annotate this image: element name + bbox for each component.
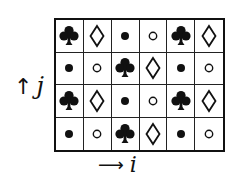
right-arrow-icon: ⟶ — [98, 154, 124, 175]
grid-cell — [56, 53, 84, 86]
club-icon — [171, 90, 191, 112]
circle-icon — [204, 129, 214, 139]
diamond-icon — [145, 56, 161, 80]
diamond-icon — [201, 24, 217, 48]
circle-icon — [92, 63, 102, 73]
i-axis-label: ⟶ i — [98, 152, 137, 177]
up-arrow-icon: ↑ — [14, 74, 32, 99]
grid-cell — [56, 118, 84, 151]
j-axis-label: ↑ j — [14, 72, 44, 100]
diamond-icon — [89, 24, 105, 48]
grid-cell — [112, 118, 140, 151]
grid-cell — [112, 20, 140, 53]
grid-cell — [195, 85, 223, 118]
grid-cell — [84, 20, 112, 53]
dot-icon — [120, 96, 130, 106]
symbol-grid — [54, 18, 225, 152]
diamond-icon — [201, 89, 217, 113]
grid-cell — [195, 20, 223, 53]
grid-cell — [140, 118, 168, 151]
grid-cell — [167, 85, 195, 118]
grid-cell — [195, 118, 223, 151]
grid-cell — [140, 20, 168, 53]
j-variable: j — [36, 72, 43, 100]
grid-cell — [56, 85, 84, 118]
circle-icon — [92, 129, 102, 139]
dot-icon — [176, 63, 186, 73]
diamond-icon — [89, 89, 105, 113]
i-variable: i — [130, 152, 137, 177]
grid-cell — [84, 53, 112, 86]
grid-cell — [195, 53, 223, 86]
circle-icon — [204, 63, 214, 73]
grid-cell — [167, 53, 195, 86]
grid-cell — [84, 118, 112, 151]
dot-icon — [120, 31, 130, 41]
grid-cell — [140, 85, 168, 118]
circle-icon — [148, 31, 158, 41]
grid-cell — [84, 85, 112, 118]
grid-cell — [112, 85, 140, 118]
club-icon — [171, 25, 191, 47]
club-icon — [59, 25, 79, 47]
grid-cell — [167, 118, 195, 151]
grid-cell — [56, 20, 84, 53]
club-icon — [115, 57, 135, 79]
grid-cell — [167, 20, 195, 53]
grid-cell — [140, 53, 168, 86]
club-icon — [59, 90, 79, 112]
club-icon — [115, 123, 135, 145]
diamond-icon — [145, 122, 161, 146]
dot-icon — [64, 63, 74, 73]
dot-icon — [64, 129, 74, 139]
grid-cell — [112, 53, 140, 86]
dot-icon — [176, 129, 186, 139]
circle-icon — [148, 96, 158, 106]
